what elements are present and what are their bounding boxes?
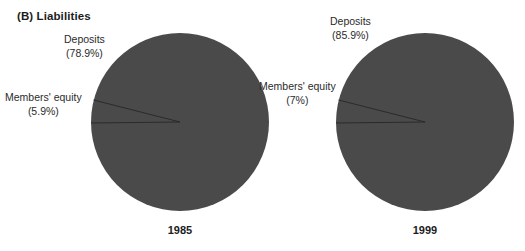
label-members-equity-1985-pct: (5.9%)	[5, 105, 82, 119]
pie-1999	[336, 33, 514, 211]
label-members-equity-1985-name: Members' equity	[5, 91, 82, 103]
label-members-equity-1999: Members' equity (7%)	[259, 80, 336, 107]
label-members-equity-1999-name: Members' equity	[259, 80, 336, 92]
year-caption-1999: 1999	[400, 224, 450, 236]
label-deposits-1985: Deposits (78.9%)	[64, 33, 105, 60]
pie-1985	[91, 33, 269, 211]
label-deposits-1999: Deposits (85.9%)	[330, 15, 371, 42]
liabilities-figure: (B) Liabilities Deposits (78.9%) Members…	[0, 0, 525, 251]
label-members-equity-1985: Members' equity (5.9%)	[5, 91, 82, 118]
label-deposits-1999-pct: (85.9%)	[330, 29, 371, 43]
year-caption-1985: 1985	[155, 224, 205, 236]
label-deposits-1999-name: Deposits	[330, 15, 371, 27]
label-deposits-1985-pct: (78.9%)	[64, 47, 105, 61]
label-members-equity-1999-pct: (7%)	[259, 94, 336, 108]
label-deposits-1985-name: Deposits	[64, 33, 105, 45]
